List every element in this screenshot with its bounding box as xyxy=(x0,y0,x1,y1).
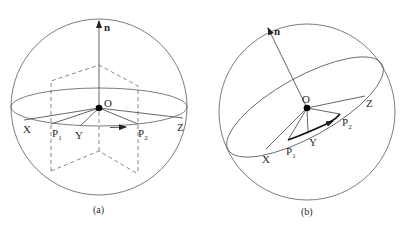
point-p2-label-b: P2 xyxy=(342,116,352,131)
normal-label-a: n xyxy=(104,21,110,33)
normal-label-b: n xyxy=(274,25,280,37)
point-p1-label-a: P1 xyxy=(52,127,62,142)
caption-a: (a) xyxy=(93,204,104,216)
point-x-label-b: X xyxy=(262,153,270,165)
panel-a: n O X P1 Y P2 Z (a) xyxy=(11,19,187,216)
point-p1-label-b: P1 xyxy=(286,145,296,160)
panel-b: n O X P1 Y P2 Z (b) xyxy=(213,24,396,218)
point-y-label-a: Y xyxy=(75,129,83,141)
caption-b: (b) xyxy=(301,206,313,218)
center-label-b: O xyxy=(302,93,310,105)
center-point-b xyxy=(304,105,311,112)
bold-arc-tail-b xyxy=(330,114,340,122)
center-label-a: O xyxy=(104,97,112,109)
point-p2-label-a: P2 xyxy=(138,127,148,142)
center-point-a xyxy=(96,105,103,112)
point-y-label-b: Y xyxy=(309,136,317,148)
sphere-diagram: n O X P1 Y P2 Z (a) n xyxy=(0,0,403,228)
point-z-label-b: Z xyxy=(366,97,373,109)
radii-a xyxy=(24,108,183,126)
arc-arrow-a xyxy=(110,127,126,128)
point-x-label-a: X xyxy=(23,123,31,135)
point-z-label-a: Z xyxy=(177,121,184,133)
